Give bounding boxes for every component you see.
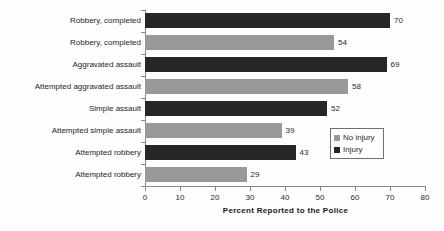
x-axis-title: Percent Reported to the Police	[145, 206, 426, 215]
bar-value-label: 69	[391, 58, 400, 71]
category-label: Attempted robbery	[0, 164, 141, 186]
x-tick-label: 60	[343, 192, 367, 203]
category-label: Robbery, completed	[0, 32, 141, 54]
bar-chart: Robbery, completed Robbery, completed Ag…	[0, 0, 444, 231]
bar-value-label: 39	[286, 124, 295, 137]
x-tick-label: 10	[168, 192, 192, 203]
legend-label: No injury	[343, 133, 375, 142]
chart-legend: No injury Injury	[330, 128, 384, 159]
bar-no-injury[interactable]	[145, 35, 334, 50]
x-tick	[180, 187, 181, 191]
bar-value-label: 43	[300, 146, 309, 159]
x-tick	[145, 187, 146, 191]
legend-swatch-icon	[334, 147, 340, 153]
bar-injury[interactable]	[145, 101, 327, 116]
bar-injury[interactable]	[145, 13, 390, 28]
x-tick	[355, 187, 356, 191]
x-tick	[390, 187, 391, 191]
category-label: Attempted aggravated assault	[0, 76, 141, 98]
category-label: Aggravated assault	[0, 54, 141, 76]
bar-value-label: 70	[394, 14, 403, 27]
category-label: Attempted simple assault	[0, 120, 141, 142]
x-tick	[250, 187, 251, 191]
bar-no-injury[interactable]	[145, 79, 348, 94]
x-tick	[320, 187, 321, 191]
x-tick-label: 40	[273, 192, 297, 203]
x-tick	[215, 187, 216, 191]
bar-value-label: 54	[338, 36, 347, 49]
legend-swatch-icon	[334, 135, 340, 141]
x-tick-label: 0	[133, 192, 157, 203]
category-label: Simple assault	[0, 98, 141, 120]
bar-value-label: 52	[331, 102, 340, 115]
bar-injury[interactable]	[145, 57, 387, 72]
bar-no-injury[interactable]	[145, 123, 282, 138]
legend-item-injury[interactable]: Injury	[334, 144, 380, 155]
bar-injury[interactable]	[145, 145, 296, 160]
x-tick-label: 20	[203, 192, 227, 203]
x-tick	[425, 187, 426, 191]
bar-value-label: 58	[352, 80, 361, 93]
x-tick-label: 70	[378, 192, 402, 203]
bar-value-label: 29	[251, 168, 260, 181]
x-tick-label: 80	[413, 192, 437, 203]
category-label: Robbery, completed	[0, 10, 141, 32]
x-tick-label: 30	[238, 192, 262, 203]
legend-item-no-injury[interactable]: No injury	[334, 132, 380, 143]
x-tick-label: 50	[308, 192, 332, 203]
plot-area: 70 54 69 58 52 39 43 29	[145, 10, 425, 186]
x-tick	[285, 187, 286, 191]
category-label: Attempted robbery	[0, 142, 141, 164]
legend-label: Injury	[343, 145, 363, 154]
bar-no-injury[interactable]	[145, 167, 247, 182]
